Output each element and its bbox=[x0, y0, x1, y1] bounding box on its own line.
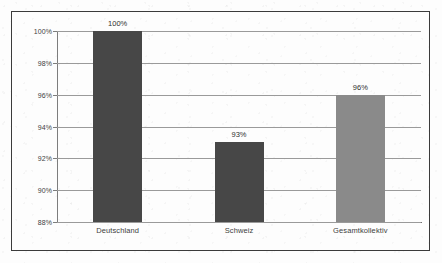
y-axis-tick-label: 100% bbox=[34, 28, 52, 35]
bar[interactable]: 96% bbox=[336, 95, 385, 222]
y-axis-tick bbox=[53, 190, 57, 191]
y-axis-tick bbox=[53, 31, 57, 32]
y-axis-tick bbox=[53, 95, 57, 96]
bar[interactable]: 93% bbox=[215, 142, 264, 222]
bar-chart-figure: 88%90%92%94%96%98%100% 100%93%96% Deutsc… bbox=[0, 0, 442, 263]
y-axis-tick-label: 96% bbox=[38, 91, 52, 98]
y-axis-tick-label: 88% bbox=[38, 219, 52, 226]
y-axis-tick-label: 94% bbox=[38, 123, 52, 130]
plot-area: 88%90%92%94%96%98%100% 100%93%96% bbox=[57, 31, 421, 222]
bar-value-label: 100% bbox=[108, 19, 127, 28]
y-axis-tick-label: 90% bbox=[38, 187, 52, 194]
y-axis-tick bbox=[53, 222, 57, 223]
bar-value-label: 93% bbox=[231, 130, 246, 139]
category-label: Gesamtkollektiv bbox=[333, 226, 387, 235]
bar-value-label: 96% bbox=[353, 83, 368, 92]
y-axis-tick-label: 92% bbox=[38, 155, 52, 162]
category-label: Schweiz bbox=[225, 226, 254, 235]
gridline bbox=[57, 222, 421, 223]
category-label: Deutschland bbox=[96, 226, 139, 235]
y-axis-tick bbox=[53, 127, 57, 128]
bar[interactable]: 100% bbox=[93, 31, 142, 222]
y-axis-tick bbox=[53, 63, 57, 64]
y-axis-tick bbox=[53, 158, 57, 159]
y-axis-tick-label: 98% bbox=[38, 59, 52, 66]
